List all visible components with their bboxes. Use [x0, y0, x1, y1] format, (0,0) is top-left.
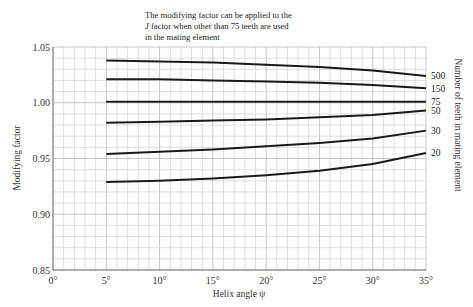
series-labels: 50015075503020: [431, 71, 446, 158]
x-tick-label: 20°: [259, 275, 273, 286]
x-tick-label: 25°: [312, 275, 326, 286]
series-label-50: 50: [431, 106, 441, 116]
series-label-150: 150: [431, 84, 446, 94]
y-tick-label: 1.00: [33, 97, 51, 108]
x-tick-label: 30°: [366, 275, 380, 286]
right-axis-label: Number of teeth in mating element: [453, 58, 463, 192]
x-tick-label: 35°: [419, 275, 433, 286]
x-axis-label: Helix angle ψ: [213, 289, 265, 299]
y-tick-label: 0.90: [33, 209, 51, 220]
x-tick-label: 5°: [102, 275, 111, 286]
line-chart: 0.850.900.951.001.050°5°10°15°20°25°30°3…: [0, 0, 473, 307]
x-tick-label: 0°: [49, 275, 58, 286]
y-tick-label: 1.05: [33, 42, 51, 53]
series-label-20: 20: [431, 148, 441, 158]
y-tick-label: 0.95: [33, 153, 51, 164]
series-label-30: 30: [431, 126, 441, 136]
series-label-500: 500: [431, 71, 446, 81]
y-tick-label: 0.85: [33, 265, 51, 276]
y-axis-label: Modifying factor: [12, 125, 22, 191]
x-tick-label: 15°: [206, 275, 220, 286]
x-tick-label: 10°: [153, 275, 167, 286]
